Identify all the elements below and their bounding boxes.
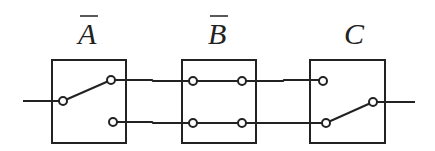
bottom-wire-a-b <box>113 122 193 123</box>
label-c-text: C <box>344 17 365 50</box>
switch-box-b <box>182 60 256 143</box>
node-b-top-left <box>189 77 197 85</box>
switch-circuit-diagram: A B C <box>0 0 435 151</box>
switch-c-lever <box>326 102 373 123</box>
node-c-bottom <box>322 119 330 127</box>
node-c-common <box>369 98 377 106</box>
node-b-bottom-right <box>238 119 246 127</box>
switch-a-lever <box>63 80 111 101</box>
node-b-bottom-left <box>189 119 197 127</box>
label-c: C <box>344 17 365 50</box>
node-c-top <box>319 77 327 85</box>
node-b-top-right <box>238 77 246 85</box>
top-wire-b-c <box>242 80 323 81</box>
node-a-common <box>59 97 67 105</box>
label-b-text: B <box>208 17 226 50</box>
node-a-bottom <box>109 118 117 126</box>
label-b: B <box>208 16 228 50</box>
label-a: A <box>76 16 98 50</box>
top-wire-a-b <box>111 80 193 81</box>
node-a-top <box>107 76 115 84</box>
label-a-text: A <box>76 17 97 50</box>
